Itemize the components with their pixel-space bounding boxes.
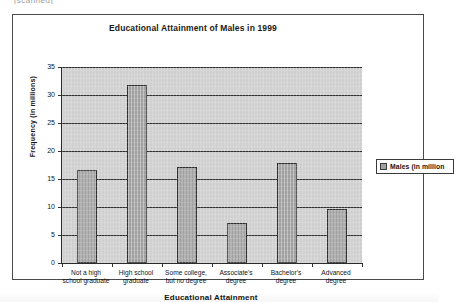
y-tick-mark-10 bbox=[58, 207, 62, 208]
y-tick-mark-15 bbox=[58, 179, 62, 180]
category-label-line: degree bbox=[326, 277, 347, 284]
legend-swatch-males bbox=[380, 163, 387, 170]
category-label-line: but no degree bbox=[166, 277, 207, 284]
y-tick-label-0: 0 bbox=[37, 259, 55, 266]
x-tick-mark-0 bbox=[112, 263, 113, 267]
gridline-10 bbox=[62, 207, 362, 208]
chart-frame: Educational Attainment of Males in 1999 … bbox=[12, 14, 424, 280]
category-label-line: Not a high bbox=[71, 269, 101, 276]
x-tick-mark-3 bbox=[262, 263, 263, 267]
x-axis-title: Educational Attainment bbox=[61, 293, 361, 302]
gridline-35 bbox=[62, 67, 362, 68]
x-tick-mark-2 bbox=[212, 263, 213, 267]
category-label-line: High school bbox=[119, 269, 153, 276]
gridline-25 bbox=[62, 123, 362, 124]
category-label-line: degree bbox=[226, 277, 247, 284]
y-axis-title: Frequency (in millions) bbox=[29, 19, 36, 215]
category-label-line: Bachelor's bbox=[271, 269, 302, 276]
bar-2[interactable] bbox=[177, 167, 197, 263]
plot-area bbox=[61, 67, 362, 264]
chart-title: Educational Attainment of Males in 1999 bbox=[13, 23, 373, 33]
bar-1[interactable] bbox=[127, 85, 147, 263]
x-tick-mark-origin bbox=[62, 263, 63, 267]
x-tick-mark-1 bbox=[162, 263, 163, 267]
y-tick-mark-30 bbox=[58, 95, 62, 96]
y-tick-label-15: 15 bbox=[37, 175, 55, 182]
y-tick-mark-35 bbox=[58, 67, 62, 68]
x-tick-mark-5 bbox=[362, 263, 363, 267]
category-label-line: graduate bbox=[123, 277, 149, 284]
y-tick-mark-5 bbox=[58, 235, 62, 236]
y-tick-label-20: 20 bbox=[37, 147, 55, 154]
chart-legend[interactable]: Males (in million bbox=[376, 159, 454, 174]
x-tick-mark-4 bbox=[312, 263, 313, 267]
category-label-line: Advanced bbox=[321, 269, 350, 276]
y-tick-label-10: 10 bbox=[37, 203, 55, 210]
bar-3[interactable] bbox=[227, 223, 247, 263]
category-label-line: Some college, bbox=[165, 269, 207, 276]
clipped-header-text: [scanned] bbox=[14, 0, 53, 4]
y-tick-mark-20 bbox=[58, 151, 62, 152]
bar-5[interactable] bbox=[327, 209, 347, 263]
y-tick-mark-25 bbox=[58, 123, 62, 124]
bar-4[interactable] bbox=[277, 163, 297, 263]
y-tick-label-30: 30 bbox=[37, 91, 55, 98]
bar-0[interactable] bbox=[77, 170, 97, 263]
y-tick-label-35: 35 bbox=[37, 63, 55, 70]
category-label-line: Associate's bbox=[219, 269, 252, 276]
gridline-30 bbox=[62, 95, 362, 96]
y-tick-label-5: 5 bbox=[37, 231, 55, 238]
category-label-line: degree bbox=[276, 277, 297, 284]
gridline-15 bbox=[62, 179, 362, 180]
y-tick-label-25: 25 bbox=[37, 119, 55, 126]
gridline-20 bbox=[62, 151, 362, 152]
x-category-label-5: Advanceddegree bbox=[305, 269, 367, 285]
legend-label-males: Males (in million bbox=[390, 163, 445, 170]
category-label-line: school graduate bbox=[63, 277, 110, 284]
gridline-5 bbox=[62, 235, 362, 236]
